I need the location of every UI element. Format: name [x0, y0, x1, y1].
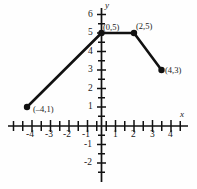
point-label-2-5: (2,5) — [136, 22, 152, 31]
y-tick-label-minus-1: -1 — [84, 140, 92, 150]
data-point-marker — [158, 67, 164, 73]
point-label-0-5: (0,5) — [103, 23, 119, 32]
point-label-4-3: (4,3) — [165, 66, 181, 75]
coordinate-plane-svg — [0, 0, 197, 189]
x-axis-label: x — [180, 110, 184, 119]
x-tick-label-minus-4: -4 — [26, 130, 34, 140]
x-tick-label-2: 2 — [131, 130, 136, 140]
data-point-marker — [24, 104, 30, 110]
x-tick-label-4: 4 — [168, 130, 173, 140]
point-label-minus4-1: (–4,1) — [33, 105, 54, 114]
x-tick-label-3: 3 — [150, 130, 155, 140]
y-tick-label-6: 6 — [88, 10, 93, 20]
y-tick-label-5: 5 — [88, 28, 93, 38]
y-tick-label-4: 4 — [88, 47, 93, 57]
x-tick-label-minus-2: -2 — [63, 130, 71, 140]
y-tick-label-1: 1 — [88, 102, 93, 112]
x-tick-label-minus-3: -3 — [45, 130, 53, 140]
function-polyline — [27, 33, 162, 107]
graph-figure: y x -4 -3 -2 -1 1 2 3 4 6 5 4 3 2 1 -1 -… — [0, 0, 197, 189]
x-tick-label-1: 1 — [113, 130, 118, 140]
y-axis-label: y — [105, 1, 109, 10]
y-tick-label-minus-2: -2 — [84, 158, 92, 168]
y-tick-label-2: 2 — [88, 84, 93, 94]
y-tick-label-3: 3 — [88, 65, 93, 75]
